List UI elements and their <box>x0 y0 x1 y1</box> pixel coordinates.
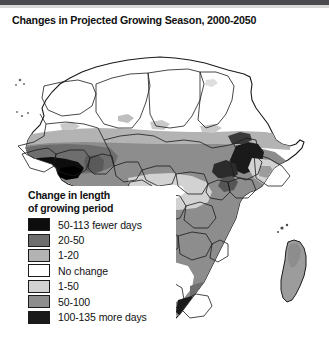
legend-title: Change in length of growing period <box>28 189 174 214</box>
comoros-island-2 <box>286 224 288 226</box>
legend-swatch-4 <box>28 280 50 293</box>
figure-container: Changes in Projected Growing Season, 200… <box>0 0 329 340</box>
legend-label-2: 1-20 <box>58 249 79 261</box>
legend-swatch-6 <box>28 311 50 324</box>
legend-label-5: 50-100 <box>58 296 90 308</box>
legend-item-4: 1-50 <box>28 279 174 294</box>
legend-label-4: 1-50 <box>58 280 79 292</box>
comoros-island-3 <box>277 231 279 233</box>
canary-island-2 <box>23 83 25 85</box>
legend-swatch-0 <box>28 218 50 231</box>
legend-item-0: 50-113 fewer days <box>28 217 174 232</box>
legend-swatch-5 <box>28 295 50 308</box>
figure-title: Changes in Projected Growing Season, 200… <box>12 14 256 26</box>
legend-label-3: No change <box>58 265 108 277</box>
cape-verde-island-2 <box>21 115 23 117</box>
legend-swatch-2 <box>28 249 50 262</box>
legend-label-1: 20-50 <box>58 234 84 246</box>
legend-swatch-1 <box>28 234 50 247</box>
cape-verde-island-3 <box>16 111 18 113</box>
canary-island-3 <box>15 84 17 86</box>
canary-island-1 <box>19 79 22 82</box>
legend-item-2: 1-20 <box>28 248 174 263</box>
top-border-shadow <box>0 5 329 8</box>
legend-swatch-3 <box>28 264 50 277</box>
madagascar <box>281 240 306 302</box>
legend-item-5: 50-100 <box>28 294 174 309</box>
cape-verde-island-1 <box>27 112 29 114</box>
map-legend: Change in length of growing period 50-11… <box>24 186 176 329</box>
legend-label-0: 50-113 fewer days <box>58 219 142 231</box>
legend-item-1: 20-50 <box>28 232 174 247</box>
legend-label-6: 100-135 more days <box>58 311 147 323</box>
comoros-island <box>280 226 283 229</box>
legend-item-3: No change <box>28 263 174 278</box>
legend-item-6: 100-135 more days <box>28 309 174 324</box>
